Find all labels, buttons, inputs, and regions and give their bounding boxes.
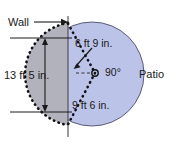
wall-height-dimension-label: 13 ft 5 in.	[4, 70, 49, 81]
right-angle-label: 90°	[105, 67, 121, 78]
patio-wall-diagram: Wall 13 ft 5 in. Patio 6 ft 9 in. 9 ft 6…	[0, 0, 178, 144]
chord-bottom-label: 9 ft 6 in.	[72, 100, 109, 111]
chord-top-label: 6 ft 9 in.	[75, 38, 112, 49]
wall-label: Wall	[8, 17, 29, 28]
patio-label: Patio	[139, 69, 164, 80]
